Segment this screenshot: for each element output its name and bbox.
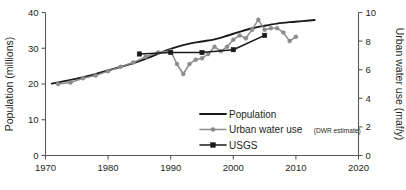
y-axis-left-ticklabel: 20 xyxy=(28,78,39,89)
data-point xyxy=(119,65,123,69)
y-axis-left-ticks xyxy=(42,13,46,156)
series-layer xyxy=(52,18,315,86)
data-point xyxy=(213,45,217,49)
y-axis-right-title: Urban water use (maf/y) xyxy=(394,28,406,141)
y-axis-right-ticklabel: 10 xyxy=(366,7,377,18)
data-point xyxy=(238,33,242,37)
legend-swatch-marker xyxy=(211,143,216,148)
y-axis-left-ticklabel: 10 xyxy=(28,114,39,125)
legend-label: Urban water use xyxy=(229,124,303,135)
data-point xyxy=(275,26,279,30)
x-axis-ticks xyxy=(46,156,359,160)
legend-item: Urban water use(DWR estimate) xyxy=(200,124,361,135)
data-point xyxy=(250,28,254,32)
y-axis-left-ticklabel: 40 xyxy=(28,7,39,18)
legend-swatch-marker xyxy=(211,127,215,131)
x-axis-ticklabel: 1990 xyxy=(160,162,181,173)
data-point xyxy=(263,28,267,32)
y-axis-left-ticklabels: 010203040 xyxy=(28,7,39,161)
data-point xyxy=(294,35,298,39)
data-point xyxy=(131,61,135,65)
chart-legend: PopulationUrban water use(DWR estimate)U… xyxy=(200,109,361,151)
y-axis-right-ticklabel: 6 xyxy=(366,64,371,75)
x-axis-ticklabel: 2000 xyxy=(223,162,244,173)
data-point xyxy=(200,56,204,60)
data-point xyxy=(181,72,185,76)
data-point xyxy=(56,82,60,86)
legend-label: Population xyxy=(229,109,276,120)
data-point xyxy=(256,18,260,22)
data-point xyxy=(288,39,292,43)
data-point xyxy=(169,50,173,54)
data-point xyxy=(137,52,141,56)
data-point xyxy=(244,36,248,40)
y-axis-right-ticklabel: 2 xyxy=(366,121,371,132)
data-point xyxy=(269,26,273,30)
data-point xyxy=(187,62,191,66)
x-axis-ticklabel: 2010 xyxy=(285,162,306,173)
data-point xyxy=(231,38,235,42)
legend-item: USGS xyxy=(200,140,258,151)
data-point xyxy=(106,69,110,73)
legend-sublabel: (DWR estimate) xyxy=(314,127,361,135)
data-point xyxy=(144,55,148,59)
y-axis-right-ticklabel: 0 xyxy=(366,150,371,161)
y-axis-right-ticklabel: 4 xyxy=(366,93,371,104)
y-axis-left-title: Population (millions) xyxy=(3,37,15,132)
y-axis-left-ticklabel: 30 xyxy=(28,43,39,54)
chart-container: 010203040 0246810 1970198019902000201020… xyxy=(0,0,406,190)
data-point xyxy=(200,50,204,54)
data-point xyxy=(194,58,198,62)
data-point xyxy=(81,76,85,80)
data-point xyxy=(94,73,98,77)
y-axis-left-ticklabel: 0 xyxy=(33,150,38,161)
y-axis-right-ticklabels: 0246810 xyxy=(366,7,377,161)
y-axis-right-ticklabel: 8 xyxy=(366,36,371,47)
x-axis-ticklabels: 197019801990200020102020 xyxy=(35,162,369,173)
data-point xyxy=(225,45,229,49)
dual-axis-line-chart: 010203040 0246810 1970198019902000201020… xyxy=(0,0,406,190)
data-point xyxy=(262,33,266,37)
data-point xyxy=(69,81,73,85)
x-axis-ticklabel: 1980 xyxy=(98,162,119,173)
data-point xyxy=(281,31,285,35)
data-point xyxy=(231,47,235,51)
legend-item: Population xyxy=(200,109,276,120)
legend-label: USGS xyxy=(229,140,258,151)
data-point xyxy=(175,62,179,66)
x-axis-ticklabel: 2020 xyxy=(348,162,369,173)
x-axis-ticklabel: 1970 xyxy=(35,162,56,173)
